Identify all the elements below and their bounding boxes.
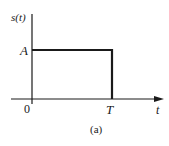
figure-caption: (a)	[90, 124, 102, 135]
rectangular-pulse-figure: s(t) A 0 T t (a)	[0, 0, 169, 146]
origin-label: 0	[24, 103, 30, 115]
x-axis-label: t	[156, 104, 159, 116]
pulse-end-label: T	[106, 103, 113, 116]
amplitude-label: A	[20, 44, 28, 57]
x-axis-arrow-icon	[154, 96, 164, 102]
y-axis-label: s(t)	[11, 12, 26, 23]
